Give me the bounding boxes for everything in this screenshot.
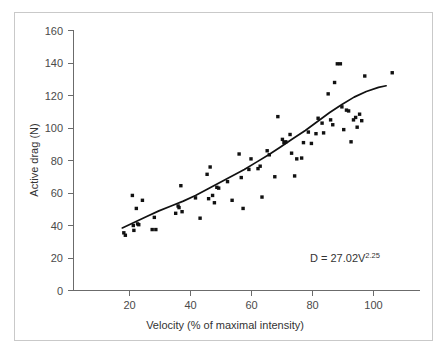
data-point xyxy=(314,132,317,135)
x-tick-label-60: 60 xyxy=(245,299,257,311)
y-tick-label-100: 100 xyxy=(45,122,63,134)
data-point xyxy=(265,149,268,152)
data-point xyxy=(237,152,240,155)
data-point xyxy=(137,223,140,226)
data-point xyxy=(174,212,177,215)
data-point xyxy=(355,125,358,128)
y-tick-label-20: 20 xyxy=(51,252,63,264)
x-axis-ticks: 20 40 60 80 100 xyxy=(123,291,382,312)
data-points-group xyxy=(122,62,394,237)
x-tick-label-80: 80 xyxy=(306,299,318,311)
x-tick-label-40: 40 xyxy=(184,299,196,311)
data-point xyxy=(307,130,310,133)
data-point xyxy=(205,173,208,176)
y-tick-label-60: 60 xyxy=(51,187,63,199)
data-point xyxy=(360,119,363,122)
data-point xyxy=(273,175,276,178)
y-axis-ticks: 160 140 120 100 80 60 40 20 0 xyxy=(45,25,74,297)
data-point xyxy=(363,74,366,77)
data-point xyxy=(326,92,329,95)
data-point xyxy=(135,207,138,210)
data-point xyxy=(300,156,303,159)
data-point xyxy=(132,224,135,227)
data-point xyxy=(198,216,201,219)
y-tick-label-160: 160 xyxy=(45,25,63,37)
data-point xyxy=(217,186,220,189)
data-point xyxy=(240,176,243,179)
data-point xyxy=(310,142,313,145)
data-point xyxy=(208,165,211,168)
data-point xyxy=(124,234,127,237)
y-tick-label-40: 40 xyxy=(51,220,63,232)
x-tick-label-20: 20 xyxy=(123,299,135,311)
equation-exponent: 2.25 xyxy=(365,251,380,260)
data-point xyxy=(258,164,261,167)
regression-line xyxy=(122,86,386,228)
data-point xyxy=(141,199,144,202)
y-axis-title: Active drag (N) xyxy=(28,123,40,196)
data-point xyxy=(340,105,343,108)
data-point xyxy=(331,123,334,126)
data-point xyxy=(211,194,214,197)
data-point xyxy=(150,228,153,231)
data-point xyxy=(207,197,210,200)
data-point xyxy=(288,133,291,136)
data-point xyxy=(336,62,339,65)
data-point xyxy=(391,71,394,74)
data-point xyxy=(354,116,357,119)
data-point xyxy=(342,128,345,131)
data-point xyxy=(329,118,332,121)
data-point xyxy=(295,157,298,160)
data-point xyxy=(322,131,325,134)
data-point xyxy=(284,140,287,143)
y-tick-label-140: 140 xyxy=(45,57,63,69)
data-point xyxy=(154,228,157,231)
data-point xyxy=(131,194,134,197)
regression-curve xyxy=(122,86,386,228)
data-point xyxy=(180,210,183,213)
data-point xyxy=(293,174,296,177)
data-point xyxy=(276,115,279,118)
data-point xyxy=(153,216,156,219)
data-point xyxy=(281,138,284,141)
data-point xyxy=(247,168,250,171)
equation-base: D = 27.02V xyxy=(310,252,366,264)
x-tick-label-100: 100 xyxy=(364,299,382,311)
figure-container: 160 140 120 100 80 60 40 20 0 20 40 xyxy=(0,0,448,355)
data-point xyxy=(290,151,293,154)
data-point xyxy=(316,117,319,120)
data-point xyxy=(241,207,244,210)
data-point xyxy=(347,109,350,112)
data-point xyxy=(339,62,342,65)
data-point xyxy=(226,180,229,183)
data-point xyxy=(268,153,271,156)
x-axis-title: Velocity (% of maximal intensity) xyxy=(146,319,304,331)
regression-equation-annotation: D = 27.02V2.25 xyxy=(310,251,380,264)
y-tick-label-120: 120 xyxy=(45,90,63,102)
data-point xyxy=(194,196,197,199)
data-point xyxy=(260,195,263,198)
y-tick-label-80: 80 xyxy=(51,155,63,167)
data-point xyxy=(320,121,323,124)
data-point xyxy=(249,157,252,160)
y-tick-label-0: 0 xyxy=(57,285,63,297)
data-point xyxy=(177,206,180,209)
scatter-chart: 160 140 120 100 80 60 40 20 0 20 40 xyxy=(0,0,448,355)
data-point xyxy=(358,112,361,115)
data-point xyxy=(302,141,305,144)
data-point xyxy=(333,81,336,84)
data-point xyxy=(132,229,135,232)
data-point xyxy=(349,140,352,143)
data-point xyxy=(213,201,216,204)
data-point xyxy=(230,199,233,202)
data-point xyxy=(179,184,182,187)
